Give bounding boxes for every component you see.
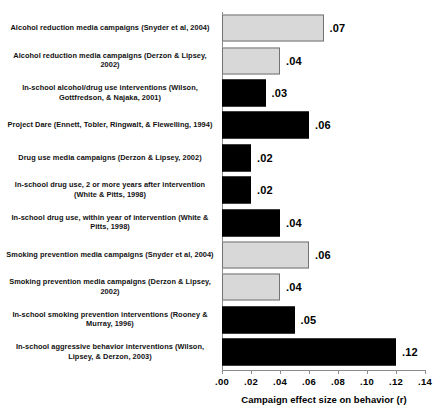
bar [222,79,266,106]
x-axis-tick-label: .10 [360,376,374,387]
bar-value-label: .07 [330,22,346,34]
bar [222,112,309,139]
bar-category-label: Drug use media campaigns (Derzon & Lipse… [6,153,218,163]
bar-value-label: .06 [315,249,331,261]
bar [222,241,309,268]
x-axis-tick-label: .06 [302,376,316,387]
bar-category-label: In-school smoking prevention interventio… [6,310,218,329]
bar-value-label: .04 [286,217,302,229]
bar-value-label: .04 [286,55,302,67]
bar-row: In-school smoking prevention interventio… [0,304,440,336]
x-axis-tick [338,370,339,374]
bar-value-label: .12 [402,346,418,358]
x-axis-tick-label: .14 [418,376,432,387]
bar [222,47,280,74]
x-axis-tick [396,370,397,374]
bar [222,306,295,333]
x-axis-tick-label: .12 [389,376,403,387]
x-axis-tick [251,370,252,374]
bar-row: In-school drug use, 2 or more years afte… [0,174,440,206]
bar-chart: Alcohol reduction media campaigns (Snyde… [0,0,440,418]
bar-category-label: Alcohol reduction media campaigns (Snyde… [6,23,218,33]
x-axis-tick [309,370,310,374]
x-axis-tick [280,370,281,374]
x-axis-tick-label: .04 [273,376,287,387]
x-axis-tick-label: .08 [331,376,345,387]
bar-category-label: In-school aggressive behavior interventi… [6,343,218,362]
x-axis-tick [425,370,426,374]
bar-category-label: Smoking prevention media campaigns (Snyd… [6,250,218,260]
bar-value-label: .03 [272,87,288,99]
bar-row: Drug use media campaigns (Derzon & Lipse… [0,142,440,174]
x-axis-tick [222,370,223,374]
bar [222,339,396,366]
bar-row: Alcohol reduction media campaigns (Snyde… [0,12,440,44]
bar-value-label: .02 [257,184,273,196]
x-axis-title: Campaign effect size on behavior (r) [222,394,426,405]
bar-row: Alcohol reduction media campaigns (Derzo… [0,44,440,76]
bar-category-label: In-school drug use, 2 or more years afte… [6,181,218,200]
bar-row: Smoking prevention media campaigns (Derz… [0,271,440,303]
bar-category-label: Alcohol reduction media campaigns (Derzo… [6,51,218,70]
bar [222,15,324,42]
bar-row: In-school drug use, within year of inter… [0,206,440,238]
bar-category-label: In-school alcohol/drug use interventions… [6,83,218,102]
bar-category-label: Project Dare (Ennett, Tobler, Ringwalt, … [6,121,218,131]
bar-value-label: .06 [315,119,331,131]
plot-area: Alcohol reduction media campaigns (Snyde… [0,0,440,372]
bar-row: Project Dare (Ennett, Tobler, Ringwalt, … [0,109,440,141]
bar-value-label: .05 [301,314,317,326]
x-axis-title-text: Campaign effect size on behavior (r) [241,394,406,405]
bar-row: Smoking prevention media campaigns (Snyd… [0,239,440,271]
bar-category-label: Smoking prevention media campaigns (Derz… [6,278,218,297]
x-axis-tick [367,370,368,374]
bar [222,177,251,204]
bar-row: In-school aggressive behavior interventi… [0,336,440,368]
x-axis-tick-label: .00 [215,376,229,387]
bar-value-label: .02 [257,152,273,164]
x-axis-tick-label: .02 [244,376,258,387]
bar [222,144,251,171]
bar [222,209,280,236]
bar [222,274,280,301]
bar-value-label: .04 [286,281,302,293]
bar-category-label: In-school drug use, within year of inter… [6,213,218,232]
bar-row: In-school alcohol/drug use interventions… [0,77,440,109]
